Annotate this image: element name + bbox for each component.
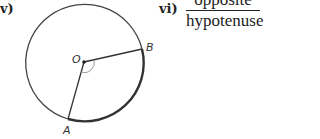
fraction: opposite hypotenuse [186,0,260,30]
label-o: O [72,53,81,66]
radius-ob [84,49,142,62]
question-vi-label: vi) [159,1,178,16]
fraction-numerator: opposite [186,0,260,11]
fraction-denominator: hypotenuse [186,11,260,30]
label-a: A [62,124,71,137]
label-b: B [146,41,154,54]
radius-oa [68,62,84,119]
center-dot [82,60,86,64]
